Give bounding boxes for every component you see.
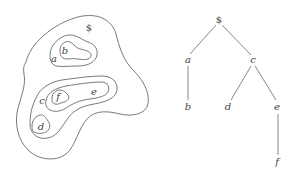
region-label-a: a (51, 54, 57, 64)
edge-c-e (255, 66, 276, 100)
region-label-root: $ (86, 23, 92, 33)
region-label-b: b (62, 46, 68, 56)
region-label-f: f (56, 92, 60, 102)
region-f (52, 90, 69, 104)
region-root (16, 16, 148, 159)
region-label-d: d (38, 122, 44, 132)
tree-node-f: f (275, 157, 279, 167)
region-label-e: e (91, 87, 97, 97)
tree-node-a: a (185, 55, 191, 65)
edge-c-d (231, 66, 251, 100)
tree-node-d: d (225, 102, 231, 112)
tree-node-root: $ (216, 15, 222, 25)
tree-node-e: e (274, 102, 280, 112)
region-e (46, 82, 109, 111)
nested-regions-diagram (0, 0, 297, 180)
edge-root-a (190, 25, 216, 54)
edge-root-c (222, 25, 251, 55)
region-label-c: c (39, 96, 45, 106)
tree-node-c: c (250, 55, 256, 65)
tree-node-b: b (185, 102, 191, 112)
figure: $ a b c d e f $ a c b d e f (0, 0, 297, 180)
region-a (50, 35, 97, 67)
tree-edges (188, 25, 278, 155)
